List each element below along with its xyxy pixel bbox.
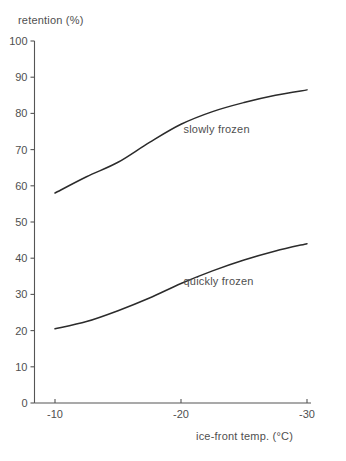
series-line-quickly-frozen [55, 244, 307, 329]
x-axis-tick-group: -10-20-30 [47, 399, 315, 420]
series-line-slowly-frozen [55, 90, 307, 193]
y-axis-tick-label: 10 [15, 361, 27, 373]
y-axis-tick-label: 90 [15, 71, 27, 83]
y-axis-tick-label: 30 [15, 288, 27, 300]
plot-area: 0102030405060708090100 -10-20-30 slowly … [0, 0, 346, 461]
y-axis-tick-label: 50 [15, 216, 27, 228]
series-annotation-quickly-frozen: quickly frozen [184, 275, 254, 287]
retention-vs-ice-front-temperature-chart: retention (%) ice-front temp. (°C) 01020… [0, 0, 346, 461]
series-annotation-slowly-frozen: slowly frozen [184, 123, 250, 135]
y-axis-tick-label: 40 [15, 252, 27, 264]
y-axis-tick-group: 0102030405060708090100 [9, 35, 34, 409]
y-axis-tick-label: 100 [9, 35, 27, 47]
x-axis-tick-label: -20 [173, 408, 189, 420]
y-axis-tick-label: 0 [21, 397, 27, 409]
y-axis-tick-label: 70 [15, 144, 27, 156]
series-group [55, 90, 307, 329]
x-axis-tick-label: -10 [47, 408, 63, 420]
x-axis-tick-label: -30 [299, 408, 315, 420]
series-annotation-group: slowly frozenquickly frozen [184, 123, 254, 287]
y-axis-tick-label: 20 [15, 325, 27, 337]
y-axis-tick-label: 80 [15, 107, 27, 119]
y-axis-tick-label: 60 [15, 180, 27, 192]
